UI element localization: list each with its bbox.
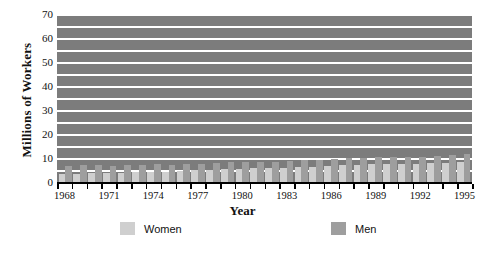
bar-men: [316, 160, 323, 182]
bar-women: [383, 164, 390, 182]
y-axis-tick-label: 50: [42, 56, 53, 68]
bar-women: [147, 172, 154, 182]
bar-women: [339, 165, 346, 182]
bar-group: [265, 14, 280, 182]
bar-group: [102, 14, 117, 182]
legend-item-men: Men: [331, 222, 376, 235]
bar-group: [176, 14, 191, 182]
bar-women: [354, 165, 361, 182]
x-axis-tick: [250, 184, 252, 189]
bar-men: [139, 165, 146, 182]
bar-men: [169, 165, 176, 182]
bar-group: [324, 14, 339, 182]
x-axis-tick-label: 1983: [276, 190, 297, 201]
x-axis-tick: [457, 184, 459, 189]
x-axis-tick-label: 1980: [232, 190, 253, 201]
bar-women: [103, 173, 110, 182]
bar-men: [213, 163, 220, 182]
bar-men: [346, 158, 353, 182]
x-axis-title: Year: [0, 203, 485, 219]
bar-women: [427, 163, 434, 182]
legend-label-men: Men: [355, 223, 376, 235]
bar-women: [295, 167, 302, 182]
bar-women: [413, 164, 420, 182]
bar-women: [132, 172, 139, 182]
bar-group: [368, 14, 383, 182]
bar-group: [442, 14, 457, 182]
x-axis-tick-label: 1992: [410, 190, 431, 201]
bar-men: [183, 164, 190, 182]
bar-group: [191, 14, 206, 182]
bar-men: [287, 161, 294, 182]
bar-men: [124, 165, 131, 182]
bar-men: [257, 162, 264, 182]
bar-group: [88, 14, 103, 182]
bar-women: [221, 169, 228, 182]
x-axis-tick-label: 1977: [187, 190, 208, 201]
bar-group: [294, 14, 309, 182]
bar-women: [73, 174, 80, 182]
x-axis-tick: [398, 184, 400, 189]
bar-group: [147, 14, 162, 182]
x-axis-tick: [161, 184, 163, 189]
x-axis-ticks: [57, 184, 472, 189]
y-axis-tick-label: 0: [48, 176, 54, 188]
bar-men: [80, 165, 87, 182]
bar-group: [456, 14, 471, 182]
x-axis-tick: [309, 184, 311, 189]
bar-men: [65, 166, 72, 182]
bar-men: [272, 162, 279, 182]
x-axis-tick: [368, 184, 370, 189]
bar-men: [464, 154, 471, 182]
x-axis-tick: [131, 184, 133, 189]
bar-men: [390, 157, 397, 182]
bar-men: [419, 157, 426, 182]
bar-women: [280, 168, 287, 182]
bar-group: [235, 14, 250, 182]
x-axis-tick: [220, 184, 222, 189]
legend-swatch-women-icon: [120, 222, 135, 235]
bar-group: [338, 14, 353, 182]
bar-group: [161, 14, 176, 182]
bar-women: [191, 170, 198, 182]
x-axis-tick: [235, 184, 237, 189]
bar-men: [449, 155, 456, 182]
bar-women: [457, 162, 464, 182]
legend-label-women: Women: [144, 223, 182, 235]
x-axis-tick: [294, 184, 296, 189]
x-axis-tick-label: 1986: [321, 190, 342, 201]
bar-men: [154, 164, 161, 182]
bar-group: [206, 14, 221, 182]
x-axis-tick: [383, 184, 385, 189]
y-axis-tick-labels: 010203040506070: [20, 0, 53, 196]
bar-group: [412, 14, 427, 182]
bar-men: [405, 157, 412, 182]
x-axis-tick: [472, 184, 474, 189]
y-axis-tick-label: 40: [42, 80, 53, 92]
bar-men: [228, 162, 235, 182]
bar-group: [383, 14, 398, 182]
y-axis-tick-label: 10: [42, 152, 53, 164]
x-axis-tick-label: 1974: [143, 190, 164, 201]
x-axis-tick: [279, 184, 281, 189]
bar-women: [250, 168, 257, 182]
bar-women: [324, 166, 331, 182]
bar-women: [442, 163, 449, 182]
bar-women: [88, 173, 95, 182]
x-axis-tick-label: 1995: [454, 190, 475, 201]
x-axis-tick: [57, 184, 59, 189]
x-axis-tick-label: 1968: [54, 190, 75, 201]
bar-women: [162, 172, 169, 182]
bar-group: [73, 14, 88, 182]
bar-groups: [57, 14, 472, 182]
y-axis-tick-label: 20: [42, 128, 53, 140]
legend-swatch-men-icon: [331, 222, 346, 235]
bar-women: [59, 174, 66, 182]
bar-women: [398, 164, 405, 182]
bar-women: [265, 168, 272, 182]
bar-men: [198, 164, 205, 182]
bar-group: [117, 14, 132, 182]
bar-men: [375, 157, 382, 182]
bar-men: [95, 165, 102, 182]
x-axis-tick: [72, 184, 74, 189]
